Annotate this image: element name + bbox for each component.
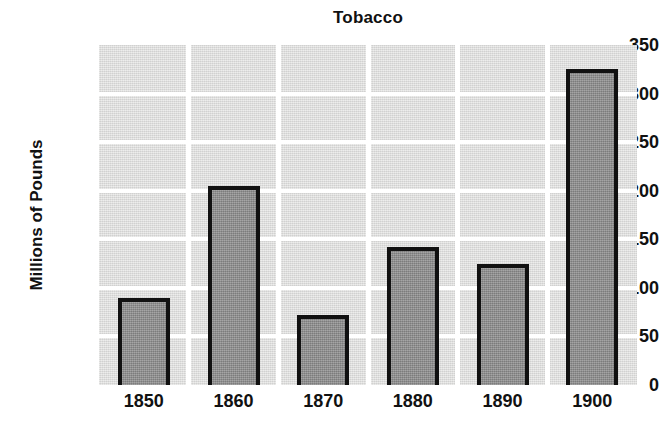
- bar-chart-figure: Tobacco Millions of Pounds 0501001502002…: [0, 0, 667, 431]
- bar: [208, 186, 260, 385]
- bar: [477, 264, 529, 385]
- gridline-vertical: [186, 45, 191, 385]
- x-tick-label: 1900: [547, 391, 637, 412]
- bar: [297, 315, 349, 385]
- chart-title: Tobacco: [99, 8, 637, 28]
- bar: [118, 298, 170, 385]
- bar: [566, 69, 618, 385]
- gridline-vertical: [455, 45, 460, 385]
- bar: [387, 247, 439, 385]
- x-tick-label: 1880: [368, 391, 458, 412]
- gridline-vertical: [366, 45, 371, 385]
- x-tick-label: 1860: [189, 391, 279, 412]
- x-tick-label: 1870: [278, 391, 368, 412]
- y-axis-title: Millions of Pounds: [22, 45, 52, 385]
- gridline-vertical: [276, 45, 281, 385]
- gridline-vertical: [545, 45, 550, 385]
- x-tick-label: 1850: [99, 391, 189, 412]
- plot-area: [99, 45, 637, 385]
- x-tick-label: 1890: [458, 391, 548, 412]
